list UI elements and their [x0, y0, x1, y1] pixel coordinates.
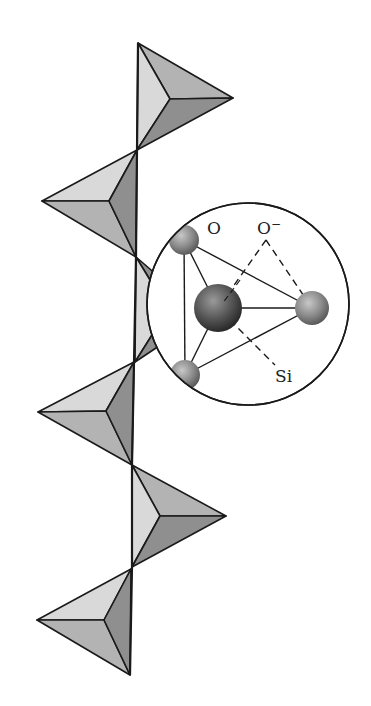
label-oxygen: O	[207, 218, 221, 238]
silicate-chain-diagram: O O− Si	[0, 0, 371, 706]
oxygen-atom-bottom	[170, 360, 200, 390]
label-silicon: Si	[275, 366, 293, 386]
tetrahedron-6	[37, 569, 131, 675]
tetrahedron-2	[42, 150, 137, 257]
tetrahedron-4	[38, 362, 134, 465]
silicon-atom	[194, 284, 242, 332]
tetrahedron-5	[132, 465, 226, 567]
oxygen-atom-top	[169, 225, 199, 255]
tetrahedron-1	[137, 43, 233, 150]
oxygen-atom-right	[295, 291, 329, 325]
tetrahedron-inset: O O− Si	[147, 203, 349, 405]
